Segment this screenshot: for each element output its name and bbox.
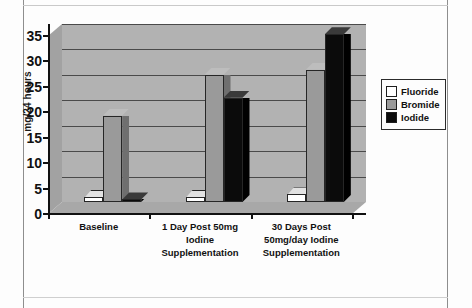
legend-item-iodide[interactable]: Iodide — [386, 112, 440, 123]
bar-side-face — [122, 116, 129, 202]
bar-fluoride-1 — [84, 197, 103, 202]
bar-chart: mg/24 hours 05101520253035 Baseline1 Day… — [0, 0, 472, 308]
legend-swatch-fluoride — [386, 86, 397, 97]
bar-front-face — [122, 199, 141, 202]
bar-front-face — [186, 197, 205, 202]
bar-bromide-3 — [306, 70, 325, 202]
y-axis-tick-label: 15 — [26, 130, 42, 146]
legend-label: Bromide — [401, 99, 440, 110]
bar-fluoride-2 — [186, 197, 205, 202]
bar-front-face — [306, 70, 325, 202]
y-axis-tick-label: 5 — [34, 181, 42, 197]
x-axis-label-line: Supplementation — [241, 246, 362, 259]
y-axis-tick-label: 20 — [26, 104, 42, 120]
bar-iodide-2 — [224, 98, 243, 202]
y-axis-tick-label: 25 — [26, 79, 42, 95]
bar-fluoride-3 — [287, 194, 306, 202]
plot-side-wall — [48, 24, 62, 214]
legend-item-fluoride[interactable]: Fluoride — [386, 86, 440, 97]
bar-front-face — [287, 194, 306, 202]
x-axis-label-line: 50mg/day Iodine — [241, 233, 362, 246]
bar-iodide-1 — [122, 199, 141, 202]
y-axis-line — [48, 24, 50, 214]
bar-front-face — [103, 116, 122, 202]
plot-area: 05101520253035 — [48, 24, 366, 214]
x-axis-line — [48, 213, 366, 215]
bar-front-face — [325, 34, 344, 202]
gridline — [62, 24, 366, 25]
chart-legend: FluorideBromideIodide — [381, 79, 446, 130]
y-axis-tick-label: 35 — [26, 28, 42, 44]
legend-swatch-iodide — [386, 112, 397, 123]
bar-bromide-2 — [205, 75, 224, 202]
legend-swatch-bromide — [386, 99, 397, 110]
legend-item-bromide[interactable]: Bromide — [386, 99, 440, 110]
y-axis-tick-label: 30 — [26, 53, 42, 69]
bar-front-face — [224, 98, 243, 202]
gridline — [62, 49, 366, 50]
y-axis-tick-label: 10 — [26, 155, 42, 171]
bar-bromide-1 — [103, 116, 122, 202]
bar-iodide-3 — [325, 34, 344, 202]
x-axis-label-line: 30 Days Post — [241, 220, 362, 233]
legend-label: Fluoride — [401, 86, 438, 97]
bar-side-face — [344, 34, 351, 202]
x-axis-label-3: 30 Days Post50mg/day IodineSupplementati… — [241, 220, 362, 259]
bar-front-face — [84, 197, 103, 202]
bar-side-face — [243, 98, 250, 202]
bar-front-face — [205, 75, 224, 202]
legend-label: Iodide — [401, 112, 429, 123]
